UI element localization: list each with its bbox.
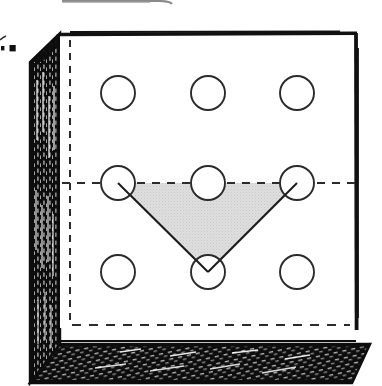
hole-bottom-right	[280, 255, 314, 289]
margin-marks	[0, 36, 16, 51]
hole-top-right	[280, 76, 314, 110]
hole-top-left	[101, 76, 135, 110]
bottom-shaded-face	[30, 344, 370, 383]
hole-bottom-center	[191, 255, 225, 289]
clipped-rounded-rect-bottom-edge	[62, 1, 172, 4]
figure-canvas	[0, 0, 382, 386]
hole-top-center	[191, 76, 225, 110]
hole-middle-right	[280, 166, 314, 200]
hole-middle-left	[101, 166, 135, 200]
hole-middle-center	[191, 166, 225, 200]
hole-bottom-left	[101, 255, 135, 289]
figure-root	[0, 0, 382, 386]
